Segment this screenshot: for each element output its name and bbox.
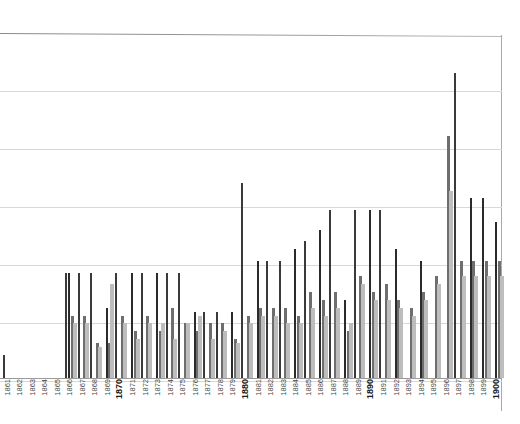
x-tick-1876: 1876 xyxy=(189,379,200,423)
x-tick-label: 1880 xyxy=(240,379,250,399)
year-group xyxy=(202,46,215,378)
year-group xyxy=(127,46,140,378)
bar xyxy=(354,210,356,378)
x-tick-1895: 1895 xyxy=(428,379,439,423)
x-tick-1875: 1875 xyxy=(177,379,188,423)
bar xyxy=(329,210,331,378)
x-tick-label: 1898 xyxy=(466,379,475,396)
x-tick-1871: 1871 xyxy=(127,379,138,423)
x-tick-label: 1893 xyxy=(404,379,413,396)
x-tick-label: 1877 xyxy=(203,379,212,396)
x-tick-1867: 1867 xyxy=(76,379,87,423)
bar xyxy=(78,273,80,378)
year-group xyxy=(102,46,115,378)
year-group xyxy=(303,46,316,378)
x-tick-1898: 1898 xyxy=(465,379,476,423)
x-tick-label: 1868 xyxy=(90,379,99,396)
year-group xyxy=(290,46,303,378)
year-group xyxy=(52,46,65,378)
x-tick-label: 1890 xyxy=(365,379,375,399)
x-tick-1894: 1894 xyxy=(415,379,426,423)
x-tick-label: 1891 xyxy=(379,379,388,396)
x-tick-1865: 1865 xyxy=(51,379,62,423)
x-tick-1861: 1861 xyxy=(1,379,12,423)
year-group xyxy=(89,46,102,378)
bar xyxy=(178,273,180,378)
bar xyxy=(241,183,243,378)
bar xyxy=(454,73,456,378)
x-tick-label: 1861 xyxy=(2,379,11,396)
year-group xyxy=(441,46,454,378)
year-group xyxy=(77,46,90,378)
bar xyxy=(500,276,504,378)
x-tick-1870: 1870 xyxy=(114,379,125,423)
x-tick-label: 1875 xyxy=(178,379,187,396)
x-tick-1872: 1872 xyxy=(139,379,150,423)
year-group xyxy=(14,46,27,378)
year-group xyxy=(478,46,491,378)
x-tick-1887: 1887 xyxy=(327,379,338,423)
bar xyxy=(203,312,205,378)
year-group xyxy=(491,46,504,378)
x-axis-tick-labels: 1861186218631864186518661867186818691870… xyxy=(0,379,520,424)
bar xyxy=(279,261,281,378)
x-tick-1889: 1889 xyxy=(352,379,363,423)
year-group xyxy=(391,46,404,378)
year-group xyxy=(190,46,203,378)
year-group xyxy=(353,46,366,378)
x-tick-1897: 1897 xyxy=(453,379,464,423)
x-tick-1878: 1878 xyxy=(214,379,225,423)
x-tick-label: 1878 xyxy=(215,379,224,396)
x-tick-label: 1870 xyxy=(114,379,124,399)
x-tick-label: 1871 xyxy=(128,379,137,396)
year-group xyxy=(240,46,253,378)
x-tick-label: 1881 xyxy=(253,379,262,396)
x-tick-label: 1882 xyxy=(266,379,275,396)
x-tick-1891: 1891 xyxy=(378,379,389,423)
bar xyxy=(166,273,168,378)
x-tick-1877: 1877 xyxy=(202,379,213,423)
x-tick-1888: 1888 xyxy=(340,379,351,423)
x-tick-label: 1876 xyxy=(190,379,199,396)
x-tick-1899: 1899 xyxy=(478,379,489,423)
x-tick-label: 1885 xyxy=(303,379,312,396)
x-tick-label: 1863 xyxy=(27,379,36,396)
year-group xyxy=(378,46,391,378)
x-tick-label: 1899 xyxy=(479,379,488,396)
year-group xyxy=(328,46,341,378)
x-tick-label: 1873 xyxy=(153,379,162,396)
x-tick-label: 1900 xyxy=(491,379,501,399)
x-tick-1873: 1873 xyxy=(152,379,163,423)
x-tick-1864: 1864 xyxy=(39,379,50,423)
x-tick-1882: 1882 xyxy=(265,379,276,423)
x-tick-1892: 1892 xyxy=(390,379,401,423)
year-group xyxy=(64,46,77,378)
year-group xyxy=(365,46,378,378)
x-tick-1881: 1881 xyxy=(252,379,263,423)
year-group xyxy=(416,46,429,378)
year-group xyxy=(340,46,353,378)
x-tick-label: 1883 xyxy=(278,379,287,396)
year-group xyxy=(140,46,153,378)
year-group xyxy=(2,46,15,378)
year-group xyxy=(403,46,416,378)
x-tick-label: 1887 xyxy=(328,379,337,396)
x-tick-label: 1862 xyxy=(15,379,24,396)
bar xyxy=(3,355,5,378)
x-tick-label: 1874 xyxy=(165,379,174,396)
x-tick-1883: 1883 xyxy=(277,379,288,423)
x-tick-label: 1865 xyxy=(52,379,61,396)
x-tick-label: 1866 xyxy=(65,379,74,396)
x-tick-1886: 1886 xyxy=(315,379,326,423)
x-tick-1869: 1869 xyxy=(101,379,112,423)
x-tick-label: 1867 xyxy=(77,379,86,396)
x-tick-label: 1889 xyxy=(353,379,362,396)
x-tick-1862: 1862 xyxy=(14,379,25,423)
year-group xyxy=(315,46,328,378)
bar xyxy=(379,210,381,378)
year-group xyxy=(39,46,52,378)
year-group xyxy=(177,46,190,378)
bar xyxy=(115,273,117,378)
year-group xyxy=(215,46,228,378)
x-tick-1893: 1893 xyxy=(403,379,414,423)
